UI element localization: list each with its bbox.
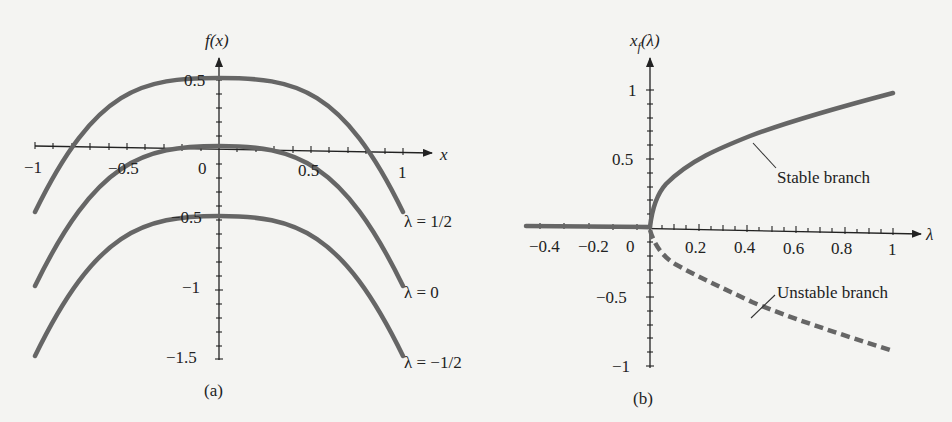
- y-tick-label: −1: [182, 278, 200, 297]
- x-tick-label: −1: [24, 158, 42, 177]
- curve-label-lambda-neg-half: λ = −1/2: [404, 353, 462, 372]
- lambda-tick-label: 0: [626, 237, 635, 256]
- stable-leader-line: [753, 143, 776, 168]
- lambda-tick-label: 0.2: [685, 238, 706, 257]
- lambda-tick-label: 1: [888, 240, 897, 259]
- x-tick-label: 0.5: [298, 161, 319, 180]
- unstable-branch-label: Unstable branch: [777, 283, 888, 302]
- figure: f(x) x −1 −0.5 0 0.5 1 0.5 −0.5 −1 −1.5 …: [0, 0, 952, 422]
- lambda-tick-label: 0.4: [734, 238, 756, 257]
- lambda-tick-label: 0.6: [783, 239, 804, 258]
- x-axis-label: x: [439, 145, 448, 164]
- xf-tick-label: 0.5: [612, 150, 633, 169]
- panel-caption: (a): [204, 381, 223, 400]
- xf-tick-label: 1: [628, 81, 637, 100]
- stable-branch-curve: [650, 93, 893, 227]
- lambda-tick-label: 0.8: [831, 239, 852, 258]
- stable-branch-negative-lambda: [526, 226, 650, 227]
- x-tick-label: −0.5: [108, 159, 139, 178]
- curve-label-lambda-zero: λ = 0: [404, 283, 439, 302]
- xf-axis-label: xf(λ): [629, 31, 660, 54]
- y-tick-label: 0.5: [184, 71, 205, 90]
- lambda-axis-label: λ: [925, 225, 933, 244]
- x-tick-label: 1: [398, 163, 407, 182]
- unstable-leader-line: [751, 295, 775, 318]
- curve-label-lambda-half: λ = 1/2: [404, 212, 452, 231]
- panel-a: f(x) x −1 −0.5 0 0.5 1 0.5 −0.5 −1 −1.5 …: [24, 31, 462, 400]
- stable-branch-label: Stable branch: [777, 168, 870, 187]
- panel-caption: (b): [633, 389, 653, 408]
- y-axis-label: f(x): [205, 31, 229, 50]
- lambda-tick-label: −0.4: [529, 237, 560, 256]
- panel-b: xf(λ) λ −0.4 −0.2 0 0.2 0.4 0.6 0.8 1 1 …: [524, 31, 933, 408]
- x-tick-label: 0: [198, 159, 207, 178]
- y-tick-label: −0.5: [171, 208, 202, 227]
- lambda-tick-label: −0.2: [578, 237, 609, 256]
- y-tick-label: −1.5: [166, 348, 197, 367]
- xf-tick-label: −1: [612, 357, 630, 376]
- xf-tick-label: −0.5: [596, 288, 627, 307]
